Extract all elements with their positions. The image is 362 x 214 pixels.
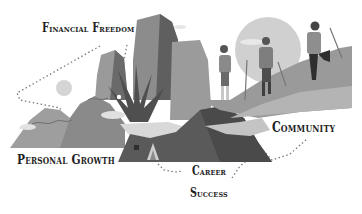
personal-growth-hill bbox=[10, 96, 125, 148]
small-sun-icon bbox=[56, 80, 72, 96]
label-personal-growth: Personal Growth bbox=[17, 153, 115, 166]
cloud-icon bbox=[174, 25, 186, 29]
cloud-icon bbox=[101, 111, 125, 119]
label-success: Success bbox=[190, 187, 228, 199]
label-career: Career bbox=[192, 165, 226, 177]
journey-illustration: Financial Freedom Community Personal Gro… bbox=[0, 0, 362, 214]
label-financial-freedom: Financial Freedom bbox=[42, 22, 134, 34]
label-community: Community bbox=[272, 120, 335, 134]
cloud-icon bbox=[240, 39, 264, 45]
cloud-icon bbox=[20, 124, 36, 130]
